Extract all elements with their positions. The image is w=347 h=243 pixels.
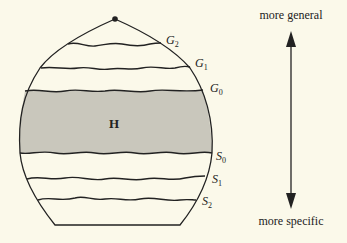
label-s0: S0 bbox=[216, 149, 226, 165]
arrow-down-icon bbox=[286, 193, 296, 209]
more-specific-label: more specific bbox=[259, 214, 324, 228]
label-g2: G2 bbox=[166, 33, 179, 49]
boundary-g1 bbox=[41, 66, 190, 69]
apex-dot bbox=[112, 16, 118, 22]
version-space-diagram: H G2 G1 G0 S0 S1 S2 more general more sp… bbox=[0, 0, 347, 243]
boundary-s1 bbox=[27, 176, 205, 180]
more-general-label: more general bbox=[260, 8, 324, 22]
boundary-s2 bbox=[38, 197, 196, 200]
label-g1: G1 bbox=[195, 56, 208, 72]
hypothesis-label: H bbox=[109, 116, 119, 131]
label-s1: S1 bbox=[212, 172, 222, 188]
boundary-g2 bbox=[68, 43, 161, 46]
label-s2: S2 bbox=[202, 194, 212, 210]
arrow-up-icon bbox=[286, 31, 296, 47]
label-g0: G0 bbox=[210, 81, 223, 97]
